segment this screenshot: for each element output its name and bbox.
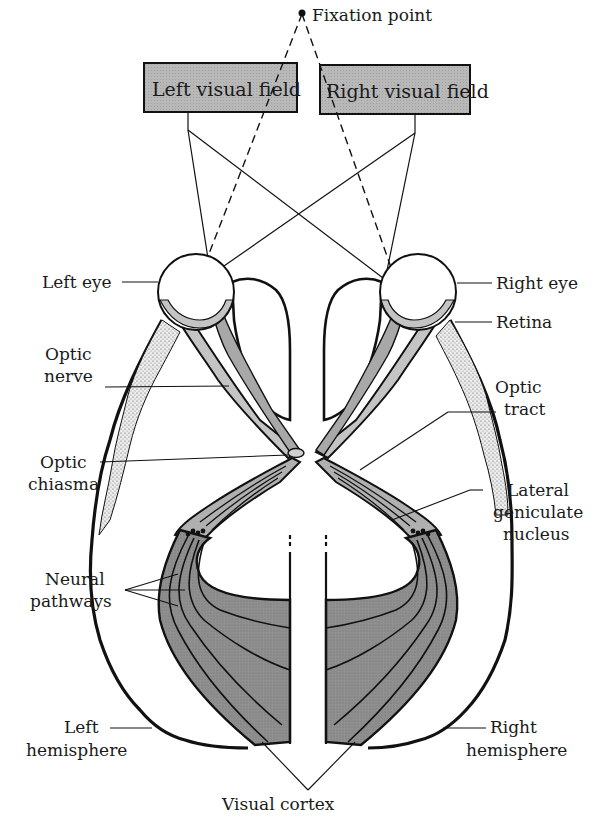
anatomical-labels: Left eye Right eye Retina Optic nerve Op… bbox=[26, 272, 583, 814]
visual-pathway-diagram: Fixation point Left visual field Right v… bbox=[0, 0, 616, 827]
neural-pathways-label-2: pathways bbox=[30, 591, 112, 611]
optic-tracts bbox=[175, 458, 441, 538]
left-eye bbox=[158, 254, 234, 330]
right-eye bbox=[380, 254, 456, 330]
fixation-point: Fixation point bbox=[299, 5, 433, 25]
lgn-label-3: nucleus bbox=[503, 524, 570, 544]
left-visual-field-box: Left visual field bbox=[144, 63, 301, 112]
optic-chiasma-label-2: chiasma bbox=[28, 474, 99, 494]
right-hemisphere-label-2: hemisphere bbox=[466, 740, 567, 760]
right-eye-label: Right eye bbox=[496, 273, 578, 293]
right-visual-field-box: Right visual field bbox=[320, 65, 489, 114]
fixation-point-label: Fixation point bbox=[312, 5, 432, 25]
right-hemisphere-label-1: Right bbox=[490, 717, 537, 737]
left-hemisphere-label-2: hemisphere bbox=[26, 740, 127, 760]
optic-nerve-label-2: nerve bbox=[44, 366, 93, 386]
left-eye-label: Left eye bbox=[42, 272, 112, 292]
right-neural-pathways bbox=[326, 529, 457, 745]
lgn-label-2: geniculate bbox=[493, 502, 583, 522]
central-fissure bbox=[290, 535, 326, 744]
visual-cortex-label: Visual cortex bbox=[221, 794, 335, 814]
right-visual-field-label: Right visual field bbox=[326, 80, 489, 102]
fixation-rays bbox=[193, 14, 401, 296]
optic-chiasma-label-1: Optic bbox=[40, 452, 87, 472]
retina-label: Retina bbox=[496, 312, 552, 332]
left-hemisphere-label-1: Left bbox=[64, 717, 99, 737]
optic-tract-label-1: Optic bbox=[495, 377, 542, 397]
optic-tract-label-2: tract bbox=[504, 399, 546, 419]
optic-nerve-label-1: Optic bbox=[45, 344, 92, 364]
lgn-label-1: Lateral bbox=[507, 480, 569, 500]
left-neural-pathways bbox=[159, 529, 290, 745]
neural-pathways-label-1: Neural bbox=[45, 569, 105, 589]
optic-chiasma bbox=[288, 449, 304, 458]
left-visual-field-label: Left visual field bbox=[152, 78, 301, 100]
